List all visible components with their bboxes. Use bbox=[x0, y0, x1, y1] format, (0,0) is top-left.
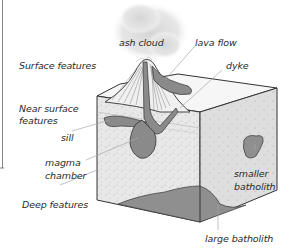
volcano-diagram: Surface features Near surface features D… bbox=[0, 0, 296, 251]
label-dyke: dyke bbox=[226, 60, 249, 72]
label-lava-flow: lava flow bbox=[195, 37, 237, 49]
label-large-batholith: large batholith bbox=[205, 233, 273, 245]
label-ash-cloud: ash cloud bbox=[119, 37, 164, 49]
zone-label-near-surface-line1: Near surface bbox=[19, 103, 79, 115]
zone-label-surface: Surface features bbox=[19, 60, 96, 72]
zone-bracket bbox=[0, 0, 4, 168]
ash-cloud-shape bbox=[110, 2, 190, 62]
label-smaller-batholith-line1: smaller bbox=[234, 168, 268, 180]
label-sill: sill bbox=[61, 132, 73, 144]
label-smaller-batholith-line2: batholith bbox=[234, 181, 276, 193]
zone-label-deep: Deep features bbox=[22, 199, 88, 211]
label-magma-line1: magma bbox=[45, 157, 81, 169]
label-magma-line2: chamber bbox=[45, 170, 86, 182]
zone-label-near-surface-line2: features bbox=[19, 115, 58, 127]
